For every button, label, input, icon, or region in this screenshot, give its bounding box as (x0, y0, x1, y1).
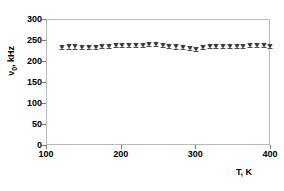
error-bar-cap-bottom (174, 49, 179, 50)
error-bar-cap-bottom (73, 49, 78, 50)
error-bar-cap-bottom (100, 48, 105, 49)
x-tick-mark (270, 145, 271, 149)
chart-figure: 050100150200250300 100200300400 ν0, kHz … (0, 0, 284, 191)
x-tick-label: 200 (104, 149, 138, 159)
plot-area (46, 19, 270, 145)
error-bar-cap-bottom (194, 51, 199, 52)
x-tick-label: 400 (253, 149, 284, 159)
error-bar-cap-bottom (248, 47, 253, 48)
x-tick-label: 100 (29, 149, 63, 159)
x-tick-label: 300 (178, 149, 212, 159)
error-bar-cap-bottom (147, 46, 152, 47)
y-axis-title: ν0, kHz (6, 26, 20, 96)
x-tick-mark (195, 145, 196, 149)
data-series-layer (47, 20, 269, 144)
y-tick-label: 50 (14, 120, 42, 129)
error-bar-cap-bottom (167, 48, 172, 49)
x-tick-mark (46, 145, 47, 149)
error-bar-cap-bottom (221, 48, 226, 49)
x-tick-mark (121, 145, 122, 149)
error-bar-cap-bottom (214, 48, 219, 49)
y-tick-label: 300 (14, 15, 42, 24)
x-axis-title: T, K (236, 167, 252, 177)
y-tick-label: 100 (14, 99, 42, 108)
